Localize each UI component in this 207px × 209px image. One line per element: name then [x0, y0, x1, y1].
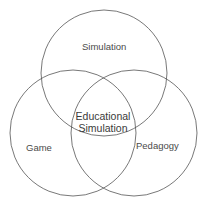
simulation-label: Simulation	[82, 42, 126, 52]
game-label: Game	[26, 143, 52, 153]
intersection-label: Educational Simulation	[68, 110, 138, 134]
venn-diagram	[0, 0, 207, 209]
pedagogy-label: Pedagogy	[136, 141, 179, 151]
intersection-line-1: Educational	[68, 110, 138, 122]
intersection-line-2: Simulation	[68, 122, 138, 134]
